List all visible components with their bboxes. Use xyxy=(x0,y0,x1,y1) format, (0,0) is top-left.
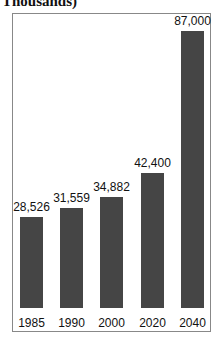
category-label-1990: 1990 xyxy=(52,316,92,330)
category-label-2000: 2000 xyxy=(92,316,132,330)
category-label-2040: 2040 xyxy=(173,316,213,330)
category-label-1985: 1985 xyxy=(12,316,52,330)
category-label-2020: 2020 xyxy=(133,316,173,330)
value-label-2020: 42,400 xyxy=(128,156,178,170)
value-label-2040: 87,000 xyxy=(168,14,218,28)
chart-title: Thousands) xyxy=(2,0,77,10)
bar-1990 xyxy=(60,208,83,308)
value-label-2000: 34,882 xyxy=(87,180,137,194)
bar-2020 xyxy=(141,173,164,308)
bar-2000 xyxy=(100,197,123,308)
bar-2040 xyxy=(181,31,204,308)
bar-1985 xyxy=(20,217,43,308)
